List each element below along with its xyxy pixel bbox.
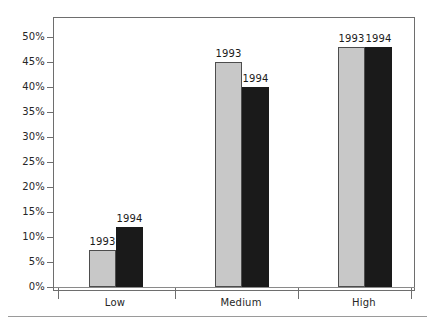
y-tick-mark <box>47 62 54 63</box>
x-axis-baseline <box>54 287 415 288</box>
y-axis: 0%5%10%15%20%25%30%35%40%45%50% <box>0 0 45 323</box>
bar[interactable] <box>338 47 365 287</box>
y-tick-label: 10% <box>0 232 45 242</box>
y-tick-label: 25% <box>0 157 45 167</box>
y-tick-label: 35% <box>0 107 45 117</box>
bar[interactable] <box>365 47 392 287</box>
y-tick-mark <box>47 37 54 38</box>
bottom-divider <box>8 316 427 317</box>
bar-value-label: 1993 <box>208 49 249 59</box>
y-tick-mark <box>47 162 54 163</box>
x-axis-separator-tick <box>298 288 299 299</box>
y-tick-label: 30% <box>0 132 45 142</box>
y-tick-mark <box>47 187 54 188</box>
bar[interactable] <box>215 62 242 287</box>
bar-value-label: 1994 <box>358 34 399 44</box>
y-tick-mark <box>47 237 54 238</box>
x-category-label: High <box>319 297 409 308</box>
y-tick-label: 45% <box>0 57 45 67</box>
x-category-label: Low <box>70 297 160 308</box>
y-tick-mark <box>47 137 54 138</box>
y-tick-label: 15% <box>0 207 45 217</box>
y-tick-mark <box>47 262 54 263</box>
bar-value-label: 1994 <box>235 74 276 84</box>
y-tick-label: 5% <box>0 257 45 267</box>
y-tick-label: 40% <box>0 82 45 92</box>
y-tick-label: 0% <box>0 282 45 292</box>
y-tick-mark <box>47 87 54 88</box>
bar[interactable] <box>242 87 269 287</box>
grouped-bar-chart: 0%5%10%15%20%25%30%35%40%45%50% 19931994… <box>0 0 433 323</box>
y-tick-label: 50% <box>0 32 45 42</box>
y-tick-mark <box>47 212 54 213</box>
x-axis-separator-tick <box>175 288 176 299</box>
bar[interactable] <box>89 250 116 288</box>
x-category-label: Medium <box>196 297 286 308</box>
y-tick-mark <box>47 287 54 288</box>
y-tick-label: 20% <box>0 182 45 192</box>
y-tick-mark <box>47 112 54 113</box>
bar-value-label: 1993 <box>82 237 123 247</box>
bar-value-label: 1994 <box>109 214 150 224</box>
x-axis-separator-tick <box>411 288 412 299</box>
x-axis-separator-tick <box>58 288 59 299</box>
